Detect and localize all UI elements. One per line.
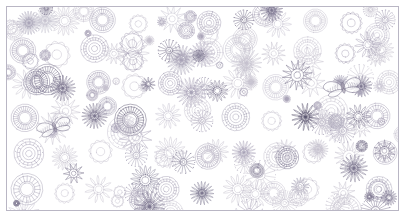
floral-pattern-illustration xyxy=(7,7,398,210)
pattern-frame xyxy=(6,6,399,211)
artboard: Seamless Floral Mandala Pattern Dense al… xyxy=(0,0,407,218)
